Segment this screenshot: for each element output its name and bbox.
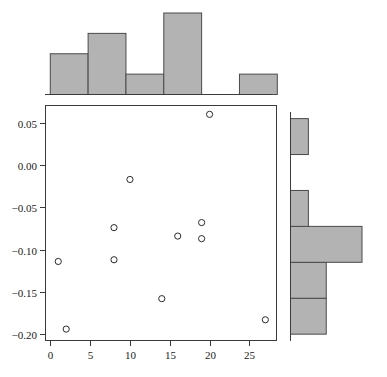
top-marginal-histogram bbox=[50, 13, 277, 95]
top-histogram-bar bbox=[88, 33, 126, 94]
right-marginal-histogram bbox=[291, 119, 363, 335]
scatter-point bbox=[111, 257, 117, 263]
scatter-point bbox=[199, 219, 205, 225]
scatter-point-group bbox=[55, 111, 268, 332]
x-axis-tick-label: 15 bbox=[165, 349, 177, 361]
marginal-scatter-figure: 0.050.00−0.05−0.10−0.15−0.20 0510152025 bbox=[0, 0, 387, 377]
x-axis-tick-label: 25 bbox=[244, 349, 256, 361]
y-axis-tick-label: −0.15 bbox=[12, 287, 38, 299]
scatter-plot-frame bbox=[46, 106, 277, 341]
y-axis-tick-label: −0.10 bbox=[12, 245, 38, 257]
scatter-point bbox=[127, 176, 133, 182]
x-axis-tick-label: 10 bbox=[125, 349, 137, 361]
scatter-point bbox=[63, 326, 69, 332]
scatter-point bbox=[111, 225, 117, 231]
right-histogram-bar bbox=[291, 119, 309, 155]
plot-canvas: 0.050.00−0.05−0.10−0.15−0.20 0510152025 bbox=[0, 0, 387, 377]
top-histogram-bar bbox=[50, 54, 88, 95]
x-axis-tick-label: 0 bbox=[48, 349, 54, 361]
top-histogram-bar bbox=[126, 74, 164, 94]
right-histogram-bar bbox=[291, 226, 363, 262]
y-axis-tick-label: −0.05 bbox=[12, 202, 38, 214]
y-axis-tick-label: 0.05 bbox=[18, 118, 38, 130]
y-axis: 0.050.00−0.05−0.10−0.15−0.20 bbox=[12, 118, 46, 341]
y-axis-tick-label: −0.20 bbox=[12, 329, 38, 341]
scatter-point bbox=[175, 233, 181, 239]
scatter-point bbox=[159, 296, 165, 302]
x-axis: 0510152025 bbox=[48, 341, 256, 362]
x-axis-tick-label: 5 bbox=[88, 349, 94, 361]
right-histogram-bar bbox=[291, 298, 327, 334]
right-histogram-bar bbox=[291, 262, 327, 298]
scatter-point bbox=[262, 317, 268, 323]
top-histogram-bar bbox=[164, 13, 202, 95]
scatter-point bbox=[199, 236, 205, 242]
scatter-point bbox=[206, 111, 212, 117]
y-axis-tick-label: 0.00 bbox=[18, 160, 38, 172]
right-histogram-bar bbox=[291, 190, 309, 226]
x-axis-tick-label: 20 bbox=[205, 349, 217, 361]
scatter-point bbox=[55, 258, 61, 264]
top-histogram-bar bbox=[239, 74, 277, 94]
